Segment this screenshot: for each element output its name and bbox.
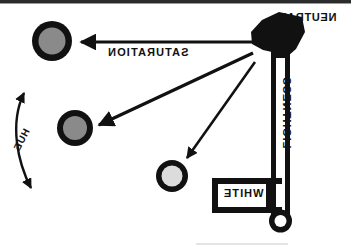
- sample-swatch-3: [156, 160, 188, 192]
- diagram-canvas: NEUTRAL SATURATION LIGHTNESS WHITE HUE: [0, 0, 351, 252]
- neutral-label: NEUTRAL: [279, 12, 336, 23]
- sample-swatch-1: [32, 21, 72, 61]
- white-label: WHITE: [223, 188, 263, 199]
- lightness-label: LIGHTNESS: [281, 77, 292, 149]
- saturation-label: SATURATION: [107, 47, 188, 58]
- saturation-arrow-mid: [99, 53, 253, 125]
- diagram-graphics: [0, 0, 351, 252]
- sample-swatch-2: [57, 110, 93, 146]
- saturation-arrow-low: [187, 62, 255, 158]
